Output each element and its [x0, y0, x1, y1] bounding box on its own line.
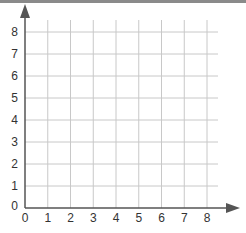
- coordinate-grid: 012345678 012345678: [0, 0, 246, 233]
- x-tick-label: 2: [67, 211, 74, 225]
- x-tick-label: 1: [44, 211, 51, 225]
- x-tick-labels: 012345678: [22, 211, 211, 225]
- x-tick-label: 4: [113, 211, 120, 225]
- x-tick-label: 6: [158, 211, 165, 225]
- y-axis-arrow-icon: [20, 4, 30, 18]
- y-tick-label: 8: [11, 25, 18, 39]
- y-tick-label: 2: [11, 157, 18, 171]
- y-tick-label: 4: [11, 113, 18, 127]
- y-tick-labels: 012345678: [11, 25, 18, 213]
- x-tick-label: 0: [22, 211, 29, 225]
- x-tick-label: 3: [90, 211, 97, 225]
- x-tick-label: 8: [204, 211, 211, 225]
- y-tick-label: 1: [11, 179, 18, 193]
- x-axis-arrow-icon: [226, 203, 240, 213]
- x-tick-label: 7: [181, 211, 188, 225]
- y-tick-label: 3: [11, 135, 18, 149]
- y-tick-label: 7: [11, 47, 18, 61]
- grid-lines: [25, 20, 218, 208]
- y-tick-label: 0: [11, 199, 18, 213]
- y-tick-label: 5: [11, 91, 18, 105]
- x-tick-label: 5: [135, 211, 142, 225]
- y-tick-label: 6: [11, 69, 18, 83]
